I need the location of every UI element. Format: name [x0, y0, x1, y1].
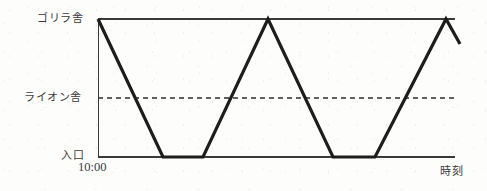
y-axis-label-gorilla-house: ゴリラ舎	[37, 13, 83, 24]
x-axis-tick-start-time: 10:00	[78, 161, 106, 174]
y-axis-label-lion-house: ライオン舎	[24, 92, 82, 103]
figure-container: ゴリラ舎 ライオン舎 入口 10:00 時刻	[0, 0, 487, 191]
x-axis-title-time: 時刻	[440, 166, 463, 177]
movement-polyline	[98, 19, 460, 157]
